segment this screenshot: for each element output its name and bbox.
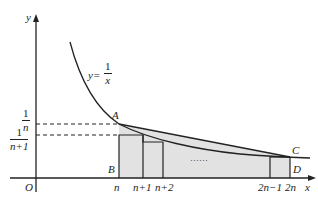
figure-canvas: ······ xyxy=(0,0,318,202)
xtick-n-plus-1: n+1 xyxy=(133,182,151,193)
xtick-2n-minus-1: 2n−1 xyxy=(258,182,282,193)
curve-label-fraction: 1 x xyxy=(104,61,112,86)
ytick-num: 1 xyxy=(10,127,28,140)
point-D-label: D xyxy=(293,164,301,175)
xtick-2n: 2n xyxy=(285,182,296,193)
y-axis-label: y xyxy=(26,12,31,23)
ellipsis: ······ xyxy=(190,155,208,165)
point-B-label: B xyxy=(108,164,115,175)
ytick-num: 1 xyxy=(22,108,30,121)
curve-fraction-num: 1 xyxy=(104,61,112,74)
ytick-1-over-n-plus-1: 1 n+1 xyxy=(10,127,28,152)
ytick-den: n+1 xyxy=(10,140,28,152)
shaded-region xyxy=(119,124,290,178)
curve-fraction-den: x xyxy=(104,74,112,86)
xtick-n: n xyxy=(114,182,120,193)
point-A-label: A xyxy=(112,110,119,121)
curve-label-lhs: y= xyxy=(88,70,100,81)
point-C-label: C xyxy=(292,145,299,156)
y-axis-arrow-icon xyxy=(33,14,39,22)
xtick-n-plus-2: n+2 xyxy=(155,182,173,193)
origin-label: O xyxy=(25,182,33,193)
x-axis-label: x xyxy=(305,182,310,193)
